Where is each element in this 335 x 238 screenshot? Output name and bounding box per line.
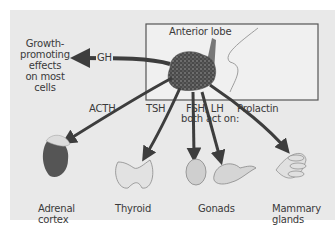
tsh-label: TSH [146, 103, 165, 114]
fsh-lh-note: both act on: [181, 113, 239, 124]
prolactin-label: Prolactin [237, 103, 279, 114]
growth-effects-label: Growth- promoting effects on most cells [16, 38, 74, 93]
thyroid-label: Thyroid [115, 203, 151, 214]
anterior-lobe-label: Anterior lobe [169, 26, 231, 37]
thyroid-gland [116, 160, 153, 188]
testis [186, 159, 206, 185]
anterior-lobe-gland [168, 52, 215, 91]
mammary-glands-label: Mammary glands [272, 203, 321, 225]
fsh-arrow-2 [202, 92, 220, 158]
mammary-gland [276, 153, 306, 178]
ovary [214, 164, 256, 184]
gonads-label: Gonads [198, 203, 235, 214]
adrenal-cortex-label: Adrenal cortex [38, 203, 75, 225]
gh-label: GH [96, 52, 113, 63]
acth-label: ACTH [89, 103, 115, 114]
